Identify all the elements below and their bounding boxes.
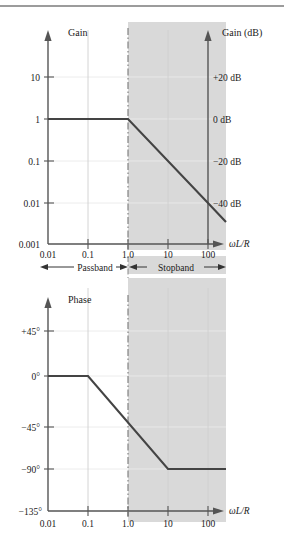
gain-plot-right-title: Gain (dB): [222, 27, 262, 39]
phase-left-axis: [44, 297, 51, 511]
gain-xtick-10: 10: [163, 250, 173, 260]
gain-xaxis-label: ωL/R: [229, 239, 250, 249]
phase-ytick-minus90: −90°: [21, 465, 40, 475]
gain-ytick-0p001: 0.001: [19, 240, 41, 250]
stopband-label: Stopband: [158, 263, 194, 273]
gain-dbtick-0: 0 dB: [213, 115, 231, 125]
figure-canvas: Gain Gain (dB) 10 1 0.1 0.01 0.001 +20 d…: [0, 0, 284, 552]
gain-plot-title: Gain: [68, 27, 87, 38]
phase-stopband-shading: [128, 278, 226, 522]
gain-left-axis: [44, 30, 51, 244]
phase-xaxis-label: ωL/R: [229, 506, 250, 516]
passband-label: Passband: [77, 263, 113, 273]
gain-xtick-100: 100: [201, 250, 216, 260]
phase-xtick-0p1: 0.1: [82, 519, 94, 529]
phase-ytick-0: 0°: [31, 372, 40, 382]
phase-xtick-10: 10: [163, 519, 173, 529]
gain-dbtick-minus40: −40 dB: [213, 199, 241, 209]
phase-ytick-plus45: +45°: [21, 327, 40, 337]
gain-dbtick-plus20: +20 dB: [213, 73, 241, 83]
phase-ytick-minus135: −135°: [19, 507, 43, 517]
gain-stopband-shading: [128, 22, 226, 250]
gain-y-ticks: [44, 77, 54, 203]
gain-xtick-0p1: 0.1: [82, 250, 94, 260]
phase-xtick-100: 100: [201, 519, 216, 529]
phase-xtick-1p0: 1.0: [122, 519, 134, 529]
phase-ytick-minus45: −45°: [21, 423, 40, 433]
gain-xtick-0p01: 0.01: [40, 250, 57, 260]
gain-ytick-10: 10: [31, 73, 41, 83]
gain-ytick-0p1: 0.1: [28, 157, 40, 167]
phase-plot-title: Phase: [68, 294, 92, 305]
gain-dbtick-minus20: −20 dB: [213, 157, 241, 167]
phase-xtick-0p01: 0.01: [40, 519, 57, 529]
gain-ytick-1: 1: [35, 115, 40, 125]
gain-ytick-0p01: 0.01: [23, 199, 40, 209]
phase-y-ticks: [44, 331, 54, 469]
bode-plot-figure: Gain Gain (dB) 10 1 0.1 0.01 0.001 +20 d…: [0, 0, 284, 552]
